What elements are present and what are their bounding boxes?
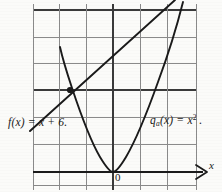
graph-canvas	[0, 0, 222, 192]
graph-figure: f(x) = x + 6 f(x) = x + 6. qa(x) = x2 . …	[0, 0, 222, 192]
function-subscript: a	[156, 119, 160, 128]
function-label-linear: f(x) = x + 6 f(x) = x + 6.	[8, 117, 67, 129]
line-curve	[30, 0, 175, 131]
origin-label: 0	[115, 172, 121, 183]
function-label-quadratic-text: qa(x) = x2 .	[150, 114, 202, 126]
function-exponent: 2	[193, 113, 197, 122]
x-axis-label: x	[209, 160, 214, 171]
function-label-linear-text: f(x) = x + 6.	[8, 116, 67, 128]
function-label-quadratic: qa(x) = x2 .	[150, 114, 202, 128]
intersection-point-marker	[67, 87, 73, 93]
grid-lines	[33, 4, 196, 190]
